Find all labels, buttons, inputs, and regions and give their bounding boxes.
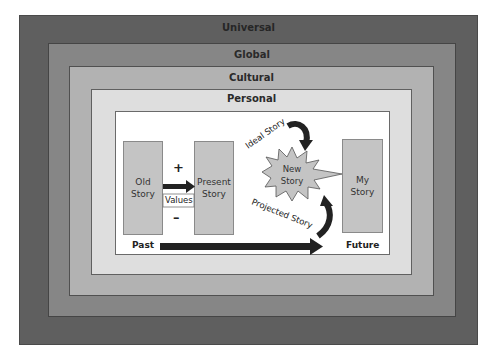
future-label: Future	[346, 240, 379, 250]
ideal-story-label: Ideal Story	[243, 116, 286, 150]
minus-sign: –	[173, 210, 180, 225]
projected-story-curved-arrow-icon	[318, 195, 333, 236]
diagram-graphics: Ideal Story Projected Story New Story	[0, 0, 491, 360]
past-label: Past	[132, 240, 154, 250]
values-label: Values	[165, 195, 193, 205]
projected-story-label: Projected Story	[250, 197, 314, 231]
plus-sign: +	[173, 160, 184, 175]
timeline-arrow-icon	[160, 238, 323, 255]
new-story-line2: Story	[281, 176, 303, 186]
new-story-line1: New	[283, 164, 302, 174]
new-story-starburst-icon	[262, 147, 342, 201]
values-arrow-icon	[163, 180, 195, 193]
